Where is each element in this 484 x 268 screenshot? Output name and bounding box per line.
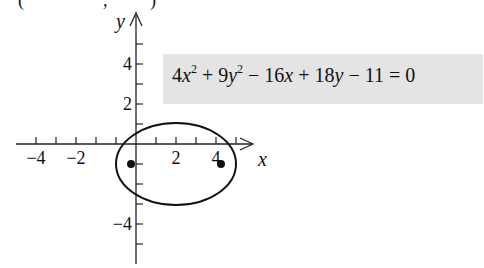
header-fragment-open-paren: ( [18, 0, 24, 11]
eq-var: y [228, 64, 237, 86]
focus-point [217, 160, 225, 168]
eq-term: + 18 [293, 64, 334, 86]
eq-term: − 16 [243, 64, 284, 86]
x-axis-label: x [257, 148, 267, 170]
header-fragment-comma: , [103, 0, 108, 10]
equation-label: 4x2 + 9y2 − 16x + 18y − 11 = 0 [172, 64, 415, 87]
x-tick-label: −4 [26, 148, 45, 168]
eq-term: + 9 [197, 64, 228, 86]
coordinate-plane: ( , ) [0, 0, 484, 268]
focus-point [127, 160, 135, 168]
y-axis-label: y [114, 10, 125, 33]
y-tick-label: 4 [123, 54, 132, 74]
eq-term: − 11 = 0 [343, 64, 415, 86]
eq-var: x [182, 64, 191, 86]
header-fragment-close-paren: ) [150, 0, 156, 11]
eq-coef: 4 [172, 64, 182, 86]
x-tick-label: 2 [172, 148, 181, 168]
x-tick-label: −2 [66, 148, 85, 168]
eq-var: x [284, 64, 293, 86]
y-tick-label: −4 [113, 214, 132, 234]
y-tick-label: 2 [123, 94, 132, 114]
